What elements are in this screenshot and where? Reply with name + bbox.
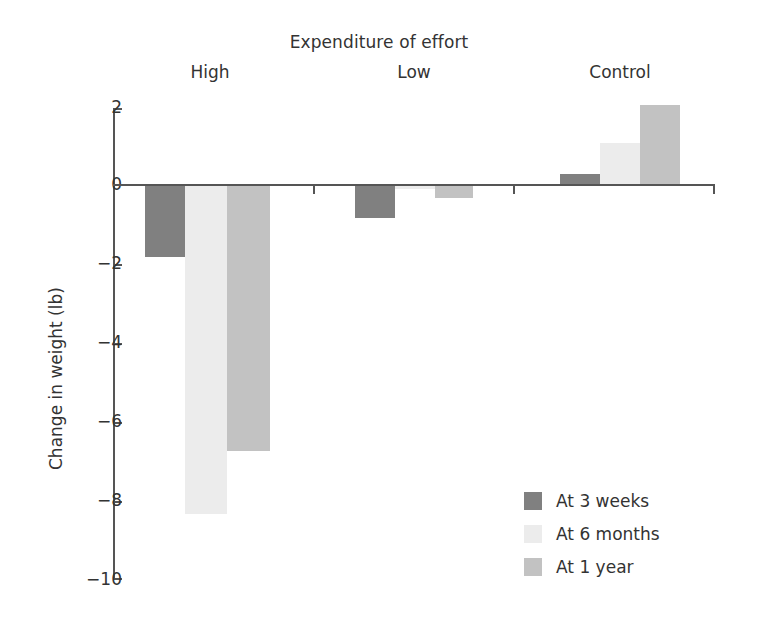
y-tick-label-minus8: −8 [62, 490, 122, 510]
legend-swatch-at-6-months [524, 525, 542, 543]
bar-chart: Expenditure of effort High Low Control 2… [0, 0, 758, 624]
bar-low-at-6-months [395, 186, 435, 189]
bar-low-at-3-weeks [355, 186, 395, 218]
group-separator-1 [313, 184, 315, 194]
bar-low-at-1-year [435, 186, 473, 198]
bar-high-at-3-weeks [145, 186, 185, 257]
y-axis-title: Change in weight (lb) [46, 287, 66, 470]
legend-swatch-at-1-year [524, 558, 542, 576]
legend-item-at-6-months: At 6 months [524, 517, 660, 550]
y-tick-label-minus6: −6 [62, 411, 122, 431]
legend-item-at-3-weeks: At 3 weeks [524, 484, 660, 517]
bar-high-at-6-months [185, 186, 227, 514]
legend-label-at-6-months: At 6 months [556, 524, 660, 544]
group-separator-2 [513, 184, 515, 194]
y-tick-label-minus4: −4 [62, 332, 122, 352]
group-label-low: Low [339, 62, 489, 82]
legend-item-at-1-year: At 1 year [524, 550, 660, 583]
legend-swatch-at-3-weeks [524, 492, 542, 510]
bar-control-at-3-weeks [560, 174, 600, 184]
legend: At 3 weeks At 6 months At 1 year [524, 484, 660, 583]
bar-high-at-1-year [227, 186, 270, 451]
chart-title: Expenditure of effort [0, 32, 758, 52]
legend-label-at-1-year: At 1 year [556, 557, 634, 577]
group-label-high: High [135, 62, 285, 82]
y-tick-label-minus2: −2 [62, 253, 122, 273]
bar-control-at-1-year [640, 105, 680, 184]
y-tick-label-2: 2 [62, 97, 122, 117]
x-axis-right-cap [713, 184, 715, 194]
legend-label-at-3-weeks: At 3 weeks [556, 491, 649, 511]
bar-control-at-6-months [600, 143, 640, 184]
y-tick-label-minus10: −10 [62, 569, 122, 589]
group-label-control: Control [545, 62, 695, 82]
